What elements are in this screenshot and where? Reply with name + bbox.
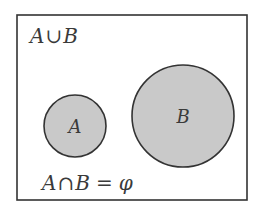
empty-set-symbol: φ bbox=[119, 171, 133, 195]
universe-label: A∪B bbox=[28, 24, 78, 48]
union-symbol: ∪ bbox=[45, 24, 62, 48]
relation-left: A bbox=[40, 171, 56, 195]
set-b-label: B bbox=[175, 106, 189, 127]
set-a-label: A bbox=[67, 116, 82, 137]
intersection-relation: A∩B=φ bbox=[40, 171, 133, 195]
intersection-symbol: ∩ bbox=[57, 171, 74, 195]
relation-right: B bbox=[74, 171, 90, 195]
universe-label-right: B bbox=[62, 24, 78, 48]
equals-sign: = bbox=[96, 171, 113, 195]
venn-diagram: A∪B A B A∩B=φ bbox=[0, 0, 257, 213]
universe-label-left: A bbox=[28, 24, 44, 48]
